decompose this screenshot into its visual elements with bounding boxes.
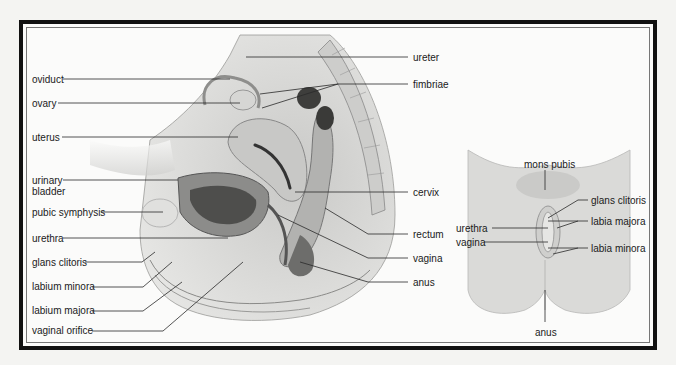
label-labium-minora: labium minora [32,281,95,292]
label-oviduct: oviduct [32,74,64,85]
label-urethra-external: urethra [456,223,488,234]
label-anus: anus [413,277,435,288]
anatomy-illustration [0,0,676,365]
label-cervix: cervix [413,187,439,198]
label-fimbriae: fimbriae [413,79,449,90]
label-vagina-external: vagina [456,237,485,248]
label-mons-pubis: mons pubis [524,159,575,170]
external-view [468,150,630,313]
label-labium-majora: labium majora [32,305,95,316]
label-urethra: urethra [32,233,64,244]
label-labia-minora: labia minora [591,243,645,254]
label-glans-clitoris: glans clitoris [32,257,87,268]
label-vagina: vagina [413,253,442,264]
label-uterus: uterus [32,132,60,143]
label-ovary: ovary [32,98,56,109]
label-anus-external: anus [535,327,557,338]
label-glans-clitoris-external: glans clitoris [591,195,646,206]
label-rectum: rectum [413,229,444,240]
label-ureter: ureter [413,52,439,63]
label-pubic-symphysis: pubic symphysis [32,207,105,218]
sagittal-section [90,35,395,320]
label-urinary-bladder-line2: bladder [32,186,65,197]
label-vaginal-orifice: vaginal orifice [32,325,93,336]
label-labia-majora: labia majora [591,216,645,227]
label-urinary-bladder-line1: urinary [32,175,63,186]
